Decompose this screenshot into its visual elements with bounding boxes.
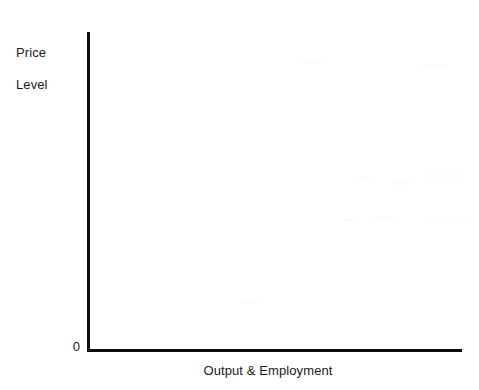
y-axis-label-line-2: Level — [16, 77, 48, 93]
scan-artifact-mark — [418, 64, 448, 68]
x-axis-line — [87, 349, 462, 352]
x-axis-label: Output & Employment — [88, 363, 448, 379]
scan-artifact-mark — [392, 181, 412, 185]
origin-label: 0 — [66, 339, 80, 354]
scan-artifact-overlay — [0, 0, 479, 390]
y-axis-line — [87, 32, 90, 352]
scan-artifact-mark — [240, 300, 258, 304]
y-axis-label: Price Level — [16, 29, 48, 109]
scan-artifact-mark — [356, 176, 370, 180]
y-axis-label-line-1: Price — [16, 45, 48, 61]
economics-axes-figure: Price Level 0 Output & Employment — [0, 0, 479, 390]
scan-artifact-mark — [344, 218, 354, 222]
scan-artifact-mark — [300, 60, 326, 64]
scan-artifact-mark — [424, 219, 466, 223]
scan-artifact-mark — [374, 216, 396, 220]
scan-artifact-mark — [428, 174, 462, 178]
